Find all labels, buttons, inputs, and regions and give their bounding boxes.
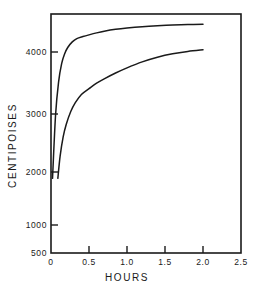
y-tick-label: 1000 — [26, 220, 47, 230]
x-tick-label: 0.5 — [82, 257, 96, 267]
figure: 4000 3000 2000 1000 500 0 0.5 1.0 1.5 2.… — [0, 0, 254, 296]
x-tick-label: 1.0 — [120, 257, 134, 267]
x-axis-title: HOURS — [0, 272, 254, 283]
x-tick-label: 0 — [48, 257, 53, 267]
x-tick-label: 2.0 — [196, 257, 210, 267]
plot-frame — [51, 14, 241, 253]
x-tick-labels: 0 0.5 1.0 1.5 2.0 2.5 — [48, 257, 247, 267]
y-axis-title: CENTIPOISES — [7, 86, 18, 206]
y-tick-label: 2000 — [26, 167, 47, 177]
x-tick-label: 2.5 — [234, 257, 248, 267]
x-tick-label: 1.5 — [158, 257, 172, 267]
line-chart: 4000 3000 2000 1000 500 0 0.5 1.0 1.5 2.… — [0, 0, 254, 296]
y-tick-label: 3000 — [26, 109, 47, 119]
y-tick-labels: 4000 3000 2000 1000 500 — [26, 47, 47, 258]
y-tick-label: 4000 — [26, 47, 47, 57]
y-tick-label: 500 — [31, 248, 47, 258]
